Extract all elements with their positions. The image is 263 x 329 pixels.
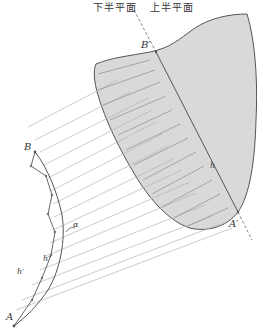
- label-angle-alpha: α: [73, 221, 78, 229]
- blade-projection-figure: [0, 0, 263, 329]
- curve-h-prime: [14, 152, 55, 326]
- diagram-canvas: 下半平面 上半平面 B′ B A′ A h h′ h″ α: [0, 0, 263, 329]
- label-point-B: B: [24, 142, 31, 152]
- label-h: h: [210, 162, 215, 170]
- label-point-A: A: [6, 312, 13, 322]
- curve-h-double-prime: [14, 152, 63, 326]
- projected-surface-shaded: [94, 14, 256, 229]
- point-A-marker: [13, 325, 16, 328]
- label-h-double-prime: h″: [43, 255, 51, 263]
- point-A-prime-marker: [237, 211, 239, 213]
- label-lower-half-plane: 下半平面: [93, 3, 137, 13]
- point-B-prime-marker: [155, 51, 157, 53]
- label-h-prime: h′: [17, 268, 24, 276]
- label-point-A-prime: A′: [229, 219, 239, 229]
- label-upper-half-plane: 上半平面: [150, 3, 194, 13]
- dashed-axis-bottom: [238, 212, 252, 240]
- label-point-B-prime: B′: [141, 40, 151, 50]
- point-B-marker: [34, 151, 37, 154]
